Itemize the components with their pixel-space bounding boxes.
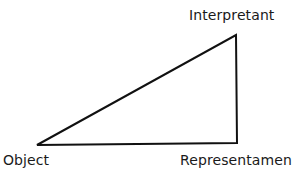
triangle-figure xyxy=(0,0,298,171)
interpretant-label: Interpretant xyxy=(189,7,274,23)
semiotic-triangle-diagram: Interpretant Object Representamen xyxy=(0,0,298,171)
representamen-label: Representamen xyxy=(180,152,292,168)
triangle-shape xyxy=(37,35,237,145)
object-label: Object xyxy=(3,152,49,168)
